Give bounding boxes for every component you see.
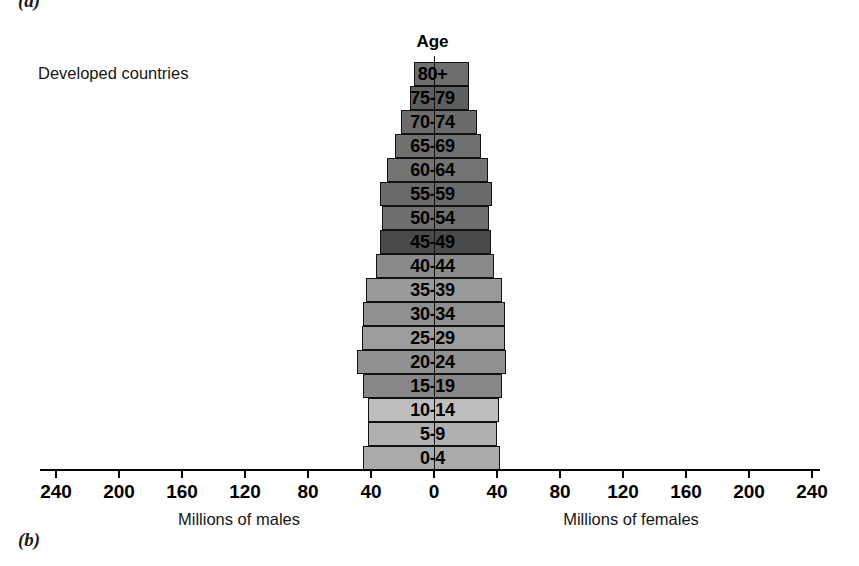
bar-male [366, 278, 434, 302]
pyramid-row: 35-39 [0, 278, 859, 302]
x-axis-tick-label: 240 [40, 481, 72, 503]
bar-female [434, 254, 494, 278]
bar-male [401, 110, 434, 134]
bar-female [434, 206, 489, 230]
population-pyramid-chart: Developed countries Age 80+75-7970-7465-… [0, 0, 859, 566]
x-axis-tick-label: 80 [297, 481, 318, 503]
bar-male [363, 446, 434, 470]
x-axis-tick-label: 160 [670, 481, 702, 503]
pyramid-row: 5-9 [0, 422, 859, 446]
pyramid-row: 80+ [0, 62, 859, 86]
x-axis-tick [559, 469, 561, 478]
x-axis-tick-label: 160 [166, 481, 198, 503]
x-axis-tick-label: 120 [229, 481, 261, 503]
x-axis-title-left: Millions of males [178, 510, 300, 529]
x-axis-tick [748, 469, 750, 478]
pyramid-bars: 80+75-7970-7465-6960-6455-5950-5445-4940… [0, 0, 859, 470]
x-axis-tick-label: 120 [607, 481, 639, 503]
x-axis-tick-label: 200 [103, 481, 135, 503]
bar-female [434, 134, 481, 158]
x-axis-tick [685, 469, 687, 478]
bar-male [368, 398, 434, 422]
x-axis-tick [55, 469, 57, 478]
x-axis-tick [370, 469, 372, 478]
bar-female [434, 398, 499, 422]
bar-male [368, 422, 434, 446]
x-axis-tick [181, 469, 183, 478]
x-axis-tick [244, 469, 246, 478]
bar-female [434, 86, 469, 110]
bar-male [380, 230, 434, 254]
x-axis-tick-label: 40 [486, 481, 507, 503]
x-axis-tick [118, 469, 120, 478]
pyramid-row: 20-24 [0, 350, 859, 374]
bar-female [434, 422, 497, 446]
bar-female [434, 182, 492, 206]
bar-female [434, 158, 488, 182]
pyramid-row: 10-14 [0, 398, 859, 422]
x-axis-tick [496, 469, 498, 478]
x-axis-tick-label: 0 [429, 481, 440, 503]
bar-female [434, 326, 505, 350]
x-axis-tick [811, 469, 813, 478]
bar-female [434, 350, 506, 374]
bar-female [434, 374, 502, 398]
bar-female [434, 62, 469, 86]
bar-male [414, 62, 434, 86]
x-axis-tick [307, 469, 309, 478]
bar-male [363, 374, 434, 398]
center-axis-line [434, 56, 436, 470]
pyramid-row: 0-4 [0, 446, 859, 470]
pyramid-row: 60-64 [0, 158, 859, 182]
pyramid-row: 15-19 [0, 374, 859, 398]
x-axis-tick-label: 240 [796, 481, 828, 503]
pyramid-row: 75-79 [0, 86, 859, 110]
x-axis-tick [433, 469, 435, 478]
bar-male [376, 254, 434, 278]
bar-male [363, 302, 434, 326]
pyramid-row: 50-54 [0, 206, 859, 230]
x-axis-tick [622, 469, 624, 478]
pyramid-row: 65-69 [0, 134, 859, 158]
pyramid-row: 30-34 [0, 302, 859, 326]
bar-male [382, 206, 434, 230]
bar-male [395, 134, 434, 158]
pyramid-row: 55-59 [0, 182, 859, 206]
x-axis-tick-label: 40 [360, 481, 381, 503]
x-axis-tick-label: 80 [549, 481, 570, 503]
pyramid-row: 70-74 [0, 110, 859, 134]
bar-female [434, 110, 477, 134]
x-axis-tick-label: 200 [733, 481, 765, 503]
bar-male [410, 86, 434, 110]
bar-male [387, 158, 434, 182]
bar-female [434, 302, 505, 326]
bar-male [362, 326, 434, 350]
bar-female [434, 278, 502, 302]
bar-male [357, 350, 434, 374]
pyramid-row: 45-49 [0, 230, 859, 254]
x-axis-line [40, 469, 820, 471]
x-axis-title-right: Millions of females [563, 510, 699, 529]
pyramid-row: 25-29 [0, 326, 859, 350]
bar-male [380, 182, 434, 206]
bar-female [434, 230, 491, 254]
bar-female [434, 446, 500, 470]
pyramid-row: 40-44 [0, 254, 859, 278]
